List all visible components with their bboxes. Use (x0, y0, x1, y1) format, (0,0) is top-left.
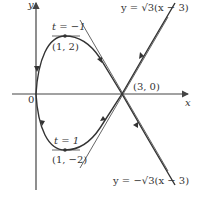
point-1-2 (63, 34, 67, 38)
parametric-curve-diagram: y x 0 t = −1 (1, 2) t = 1 (1, −2) (3, 0)… (0, 0, 198, 202)
tangent-line-positive (80, 17, 168, 168)
tangent-label-positive: y = √3(x − 3) (120, 2, 189, 13)
tangent-line-negative (80, 20, 168, 171)
x-axis-label: x (185, 97, 191, 108)
param-label-t-neg1: t = −1 (52, 21, 86, 32)
point-label-1-neg2: (1, −2) (52, 154, 87, 165)
param-label-t-1: t = 1 (54, 135, 79, 146)
point-1-neg2 (63, 148, 67, 152)
y-axis-label: y (27, 0, 34, 10)
tangent-label-negative: y = −√3(x − 3) (112, 175, 189, 186)
point-label-3-0: (3, 0) (133, 81, 160, 92)
point-label-1-2: (1, 2) (52, 41, 79, 52)
direction-arrow-icon (133, 122, 138, 128)
origin-label: 0 (28, 94, 34, 105)
